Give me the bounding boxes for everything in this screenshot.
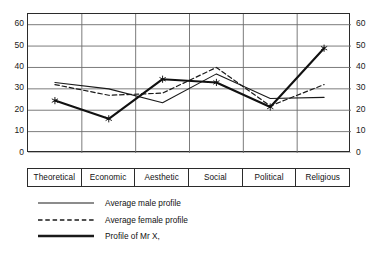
y-tick-label-right-20: 20 bbox=[356, 105, 365, 114]
y-tick-label-right-50: 50 bbox=[356, 41, 365, 50]
y-tick-label-right-60: 60 bbox=[356, 19, 365, 28]
legend-line-swatch bbox=[38, 198, 94, 208]
legend-item-0: Average male profile bbox=[38, 198, 188, 208]
category-label-economic[interactable]: Economic bbox=[82, 169, 136, 186]
category-label-political[interactable]: Political bbox=[243, 169, 297, 186]
y-tick-label-left-20: 20 bbox=[15, 105, 24, 114]
legend-label: Average female profile bbox=[105, 215, 188, 225]
category-label-row: TheoreticalEconomicAestheticSocialPoliti… bbox=[27, 168, 350, 187]
legend-line-swatch bbox=[38, 215, 94, 225]
legend-label: Profile of Mr X, bbox=[105, 231, 160, 241]
y-tick-label-right-40: 40 bbox=[356, 62, 365, 71]
category-label-social[interactable]: Social bbox=[189, 169, 243, 186]
legend-label: Average male profile bbox=[105, 198, 181, 208]
plot-canvas bbox=[28, 14, 351, 153]
legend-line-swatch bbox=[38, 231, 94, 241]
y-tick-label-left-60: 60 bbox=[15, 19, 24, 28]
y-tick-label-right-0: 0 bbox=[356, 148, 361, 157]
y-tick-label-left-50: 50 bbox=[15, 41, 24, 50]
category-label-aesthetic[interactable]: Aesthetic bbox=[135, 169, 189, 186]
y-tick-label-right-30: 30 bbox=[356, 83, 365, 92]
chart-legend: Average male profileAverage female profi… bbox=[38, 198, 188, 241]
y-tick-label-right-10: 10 bbox=[356, 126, 365, 135]
category-label-theoretical[interactable]: Theoretical bbox=[28, 169, 82, 186]
y-tick-label-left-0: 0 bbox=[19, 148, 24, 157]
legend-item-2: Profile of Mr X, bbox=[38, 231, 188, 241]
plot-area bbox=[27, 13, 350, 152]
chart-root: 6050403020100 6050403020100 TheoreticalE… bbox=[0, 0, 378, 254]
y-tick-label-left-10: 10 bbox=[15, 126, 24, 135]
y-tick-label-left-30: 30 bbox=[15, 83, 24, 92]
category-label-religious[interactable]: Religious bbox=[296, 169, 349, 186]
legend-item-1: Average female profile bbox=[38, 215, 188, 225]
y-tick-label-left-40: 40 bbox=[15, 62, 24, 71]
